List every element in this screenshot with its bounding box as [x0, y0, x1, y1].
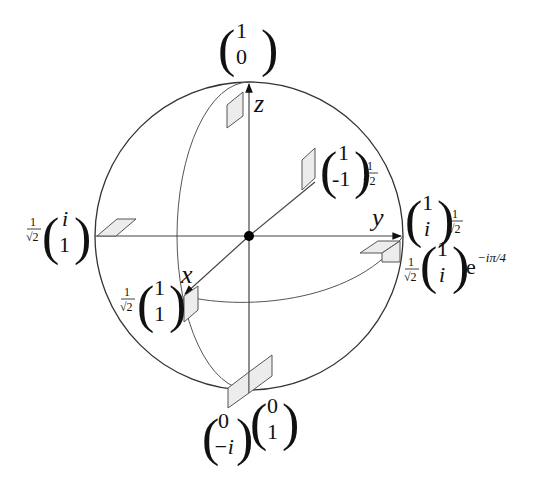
svg-text:1: 1	[124, 285, 130, 299]
svg-text:(: (	[420, 237, 437, 295]
svg-text:1: 1	[422, 190, 433, 215]
svg-text:0: 0	[267, 393, 278, 418]
y-axis-label: y	[369, 203, 384, 232]
origin-dot	[244, 231, 254, 241]
bloch-sphere-diagram: z y x ( ) 1 0 ( ) 1 -1 1 √2 ( ) 1 i 1 √2…	[0, 0, 534, 482]
svg-text:(: (	[42, 208, 59, 266]
x-axis	[185, 236, 249, 294]
svg-text:1: 1	[30, 215, 36, 229]
svg-text:√2: √2	[120, 300, 133, 314]
svg-text:i: i	[439, 262, 445, 287]
svg-text:(: (	[137, 276, 154, 334]
svg-text:): )	[169, 276, 186, 334]
svg-text:1: 1	[437, 236, 448, 261]
svg-text:(: (	[250, 394, 267, 452]
svg-text:0: 0	[236, 44, 247, 69]
svg-text:1: 1	[452, 207, 458, 221]
svg-text:√2: √2	[448, 222, 461, 236]
z-axis-label: z	[253, 89, 264, 118]
polarization-plane-left	[97, 219, 136, 236]
state-top: ( ) 1 0	[218, 18, 278, 78]
state-bottom-left: ( ) 0 −i	[202, 408, 253, 467]
state-bottom-right: ( ) 0 1	[250, 393, 299, 452]
polarization-plane-bottom-a	[228, 372, 249, 408]
svg-text:1: 1	[236, 18, 247, 43]
svg-text:√2: √2	[26, 230, 39, 244]
svg-text:): )	[282, 394, 299, 452]
svg-text:1: 1	[59, 232, 70, 257]
svg-text:): )	[261, 20, 278, 78]
polarization-plane-top	[227, 92, 243, 128]
svg-text:-1: -1	[332, 166, 350, 191]
diagonal-axis	[249, 182, 315, 236]
svg-text:√2: √2	[404, 270, 417, 284]
svg-text:1: 1	[267, 419, 278, 444]
svg-text:1: 1	[408, 255, 414, 269]
svg-text:√2: √2	[363, 174, 376, 188]
svg-text:(: (	[218, 20, 235, 78]
svg-text:1: 1	[154, 275, 165, 300]
state-upper-right: ( ) 1 -1 1 √2	[320, 140, 378, 200]
state-right-lower: 1 √2 ( ) 1 i e −iπ/4	[404, 236, 507, 295]
svg-text:−i: −i	[213, 434, 234, 459]
polarization-plane-bottom-b	[249, 355, 272, 393]
state-x-axis: 1 √2 ( ) 1 1	[120, 275, 186, 334]
svg-text:1: 1	[367, 159, 373, 173]
svg-text:−iπ/4: −iπ/4	[477, 250, 507, 265]
svg-text:0: 0	[218, 408, 229, 433]
svg-text:1: 1	[338, 140, 349, 165]
svg-text:1: 1	[154, 301, 165, 326]
svg-text:): )	[74, 208, 91, 266]
state-left: 1 √2 ( ) i 1	[26, 206, 91, 266]
svg-text:e: e	[466, 254, 476, 279]
svg-text:i: i	[62, 206, 68, 231]
